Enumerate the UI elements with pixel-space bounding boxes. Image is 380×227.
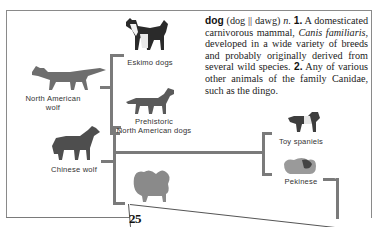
pekinese-illustration <box>282 156 318 176</box>
dictionary-definition: dog (dog || dawg) n. 1. A domesticated c… <box>205 15 368 96</box>
headword: dog <box>205 15 224 26</box>
part-of-speech: n. <box>283 15 291 26</box>
lineage-bracket-chinese-wolf <box>113 126 116 205</box>
label-toy-spaniels: Toy spaniels <box>276 137 326 146</box>
lineage-line-pekinese <box>262 173 272 176</box>
page-number: 25 <box>129 211 141 227</box>
lineage-line-toy-spaniels <box>262 132 272 135</box>
prehistoric-dog-illustration <box>124 86 176 116</box>
label-eskimo-dogs: Eskimo dogs <box>124 58 176 67</box>
lineage-bracket-asian <box>262 132 265 176</box>
label-chinese-wolf: Chinese wolf <box>44 165 104 174</box>
chow-illustration <box>128 164 174 204</box>
chinese-wolf-illustration <box>44 124 102 164</box>
lineage-line-chow <box>113 202 125 205</box>
species-name: Canis familiaris <box>298 27 365 38</box>
eskimo-dog-illustration <box>120 12 172 56</box>
page-bottom-edge <box>6 217 130 218</box>
label-na-wolf-line1: North American <box>8 94 98 103</box>
label-prehistoric-line1: Prehistoric <box>110 117 198 126</box>
label-prehistoric-dogs: Prehistoric North American dogs <box>110 117 198 135</box>
label-north-american-wolf: North American wolf <box>8 94 98 112</box>
north-american-wolf-illustration <box>30 62 108 92</box>
label-na-wolf-line2: wolf <box>8 103 98 112</box>
lineage-line-pekinese-down <box>336 178 339 219</box>
lineage-line-asian <box>115 151 265 154</box>
label-pekinese: Pekinese <box>276 177 326 186</box>
pronunciation: (dog || dawg) <box>227 15 281 26</box>
label-prehistoric-line2: North American dogs <box>110 126 198 135</box>
toy-spaniel-illustration <box>284 108 322 134</box>
